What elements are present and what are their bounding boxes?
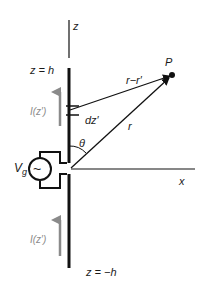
x-axis-label: x <box>178 175 185 187</box>
vector-r-label: r <box>128 120 133 132</box>
bottom-end-label: z = −h <box>85 266 117 278</box>
vector-r-minus-rprime-label: r−r′ <box>126 74 143 86</box>
current-label-bottom: I(z′) <box>30 234 46 245</box>
point-label: P <box>165 56 173 68</box>
vector-r-minus-rprime <box>70 76 170 110</box>
dipole-diagram: z z = h z = −h dz′ I(z′) I(z′) r−r′ r P … <box>0 0 203 283</box>
source-symbol: ~ <box>33 161 41 177</box>
top-end-label: z = h <box>29 64 54 76</box>
element-label: dz′ <box>85 114 100 126</box>
source-label: Vg <box>14 161 27 177</box>
z-axis-label: z <box>72 20 79 32</box>
theta-label: θ <box>79 137 85 149</box>
current-label-top: I(z′) <box>30 106 46 117</box>
observation-point <box>169 72 175 78</box>
